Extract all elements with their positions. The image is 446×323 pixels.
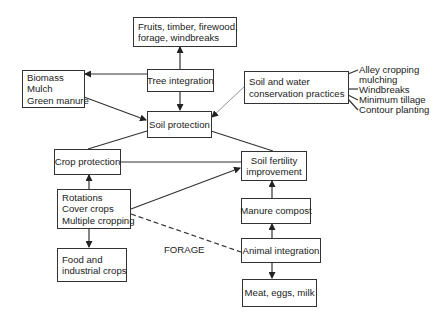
node-tree-products-line1: Fruits, timber, firewood, xyxy=(138,21,232,33)
node-food-crops: Food and industrial crops xyxy=(57,248,127,282)
node-soil-protection: Soil protection xyxy=(147,111,212,138)
node-animal-products: Meat, eggs, milk xyxy=(242,279,317,307)
node-food-crops-line2: industrial crops xyxy=(62,265,122,277)
node-rotations: Rotations Cover crops Multiple cropping xyxy=(57,189,131,229)
node-tree-products-line2: forage, windbreaks xyxy=(138,32,232,44)
node-biomass-line3: Green manure xyxy=(27,95,80,107)
node-animal-integration-label: Animal integration xyxy=(243,245,320,257)
node-biomass-line1: Biomass xyxy=(27,72,80,84)
node-animal-integration: Animal integration xyxy=(241,238,321,263)
node-crop-protection-label: Crop protection xyxy=(55,156,121,168)
node-soil-protection-label: Soil protection xyxy=(149,119,210,131)
edge-label-forage: FORAGE xyxy=(164,244,205,256)
node-soil-fertility-line2: improvement xyxy=(246,166,301,178)
node-soil-water-line1: Soil and water xyxy=(249,76,344,88)
node-tree-products: Fruits, timber, firewood, forage, windbr… xyxy=(133,17,237,47)
node-biomass: Biomass Mulch Green manure xyxy=(22,70,85,108)
node-soil-fertility: Soil fertility improvement xyxy=(241,151,307,181)
node-rotations-line2: Cover crops xyxy=(62,203,126,215)
node-rotations-line3: Multiple cropping xyxy=(62,215,126,227)
node-biomass-line2: Mulch xyxy=(27,83,80,95)
node-soil-water-line2: conservation practices xyxy=(249,88,344,100)
node-rotations-line1: Rotations xyxy=(62,192,126,204)
node-food-crops-line1: Food and xyxy=(62,254,122,266)
node-tree-integration-label: Tree integration xyxy=(147,75,214,87)
node-soil-fertility-line1: Soil fertility xyxy=(251,155,297,167)
node-manure-compost: Manure compost xyxy=(241,198,311,224)
node-manure-compost-label: Manure compost xyxy=(240,205,311,217)
node-soil-water-conservation: Soil and water conservation practices xyxy=(244,71,349,104)
practice-contour-planting: Contour planting xyxy=(359,104,429,116)
node-animal-products-label: Meat, eggs, milk xyxy=(245,287,315,299)
node-tree-integration: Tree integration xyxy=(147,69,214,92)
node-crop-protection: Crop protection xyxy=(54,149,121,175)
